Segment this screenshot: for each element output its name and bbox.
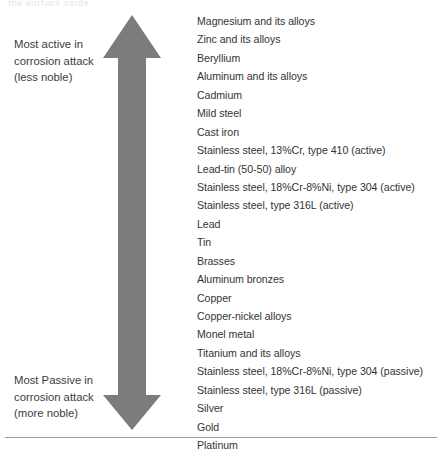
label-most-passive: Most Passive in corrosion attack (more n… (14, 372, 114, 422)
label-most-passive-line1: Most Passive in (14, 372, 114, 389)
metal-list-item: Stainless steel, 13%Cr, type 410 (active… (197, 141, 440, 159)
bottom-divider (5, 437, 437, 438)
scan-artifact-text: the surface oxide (8, 0, 198, 6)
metal-list-item: Tin (197, 233, 440, 251)
metal-list-item: Stainless steel, type 316L (active) (197, 196, 440, 214)
metal-list-item: Platinum (197, 436, 440, 453)
label-most-passive-line2: corrosion attack (14, 389, 114, 406)
metal-list-item: Aluminum bronzes (197, 270, 440, 288)
metal-list-item: Stainless steel, type 316L (passive) (197, 381, 440, 399)
galvanic-series-list: Magnesium and its alloysZinc and its all… (197, 12, 440, 453)
metal-list-item: Stainless steel, 18%Cr-8%Ni, type 304 (p… (197, 362, 440, 380)
label-most-active-line3: (less noble) (14, 69, 114, 86)
metal-list-item: Beryllium (197, 49, 440, 67)
metal-list-item: Copper-nickel alloys (197, 307, 440, 325)
metal-list-item: Stainless steel, 18%Cr-8%Ni, type 304 (a… (197, 178, 440, 196)
metal-list-item: Zinc and its alloys (197, 30, 440, 48)
label-most-active-line2: corrosion attack (14, 53, 114, 70)
metal-list-item: Titanium and its alloys (197, 344, 440, 362)
label-most-active: Most active in corrosion attack (less no… (14, 36, 114, 86)
metal-list-item: Aluminum and its alloys (197, 67, 440, 85)
metal-list-item: Lead (197, 215, 440, 233)
metal-list-item: Brasses (197, 252, 440, 270)
metal-list-item: Copper (197, 289, 440, 307)
metal-list-item: Cast iron (197, 123, 440, 141)
metal-list-item: Silver (197, 399, 440, 417)
metal-list-item: Magnesium and its alloys (197, 12, 440, 30)
label-most-passive-line3: (more noble) (14, 405, 114, 422)
metal-list-item: Gold (197, 418, 440, 436)
metal-list-item: Monel metal (197, 325, 440, 343)
metal-list-item: Mild steel (197, 104, 440, 122)
metal-list-item: Lead-tin (50-50) alloy (197, 160, 440, 178)
metal-list-item: Cadmium (197, 86, 440, 104)
label-most-active-line1: Most active in (14, 36, 114, 53)
